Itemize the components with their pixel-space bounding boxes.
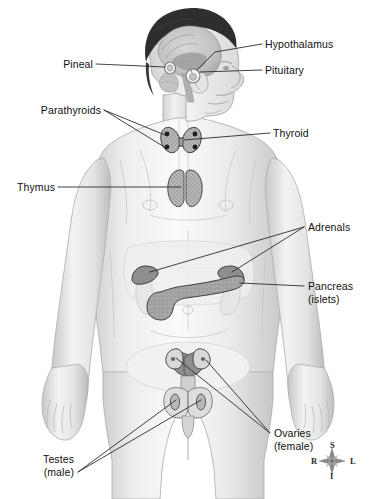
label-testes-line1: Testes [0,453,74,466]
compass-label-left: L [350,456,356,466]
pineal-gland [165,62,176,74]
label-hypothalamus: Hypothalamus [265,38,333,51]
label-testes: Testes (male) [0,453,74,478]
anatomical-illustration [0,0,375,499]
pituitary-gland [186,69,200,83]
label-adrenals: Adrenals [308,221,350,234]
compass-label-right: R [311,456,317,466]
label-ovaries-line1: Ovaries [274,427,313,440]
label-pituitary: Pituitary [265,64,304,77]
label-ovaries-line2: (female) [274,440,313,453]
label-pineal: Pineal [0,58,93,71]
endocrine-system-figure: Hypothalamus Pituitary Pineal Parathyroi… [0,0,375,499]
label-thyroid: Thyroid [273,127,309,140]
label-pancreas-line1: Pancreas [308,280,353,293]
compass-label-superior: S [330,440,335,450]
label-parathyroids: Parathyroids [0,104,101,117]
head-profile [145,8,244,121]
label-pancreas-line2: (islets) [308,293,353,306]
label-ovaries: Ovaries (female) [274,427,313,452]
label-pancreas: Pancreas (islets) [308,280,353,305]
label-thymus: Thymus [0,181,55,194]
label-testes-line2: (male) [0,466,74,479]
compass-label-inferior: I [330,471,333,481]
